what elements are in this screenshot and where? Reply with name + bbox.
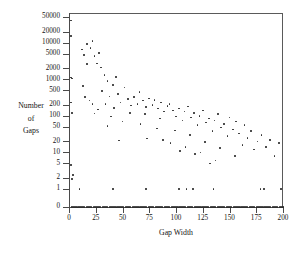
y-tick-mark xyxy=(63,116,69,117)
data-point xyxy=(167,105,169,107)
data-point xyxy=(157,108,159,110)
data-point xyxy=(162,139,164,141)
data-point xyxy=(238,133,240,135)
x-tick-mark xyxy=(176,207,177,213)
data-point xyxy=(97,109,99,111)
data-point xyxy=(242,144,244,146)
y-axis-title: NumberofGaps xyxy=(2,100,60,138)
data-point xyxy=(212,130,214,132)
data-point xyxy=(127,98,129,100)
y-tick-label: 20000 xyxy=(42,28,60,35)
y-tick-mark xyxy=(63,43,69,44)
data-point xyxy=(204,141,206,143)
data-point xyxy=(172,110,174,112)
y-tick-mark xyxy=(63,17,69,18)
data-point xyxy=(194,153,196,155)
x-tick-mark xyxy=(96,207,97,213)
data-point xyxy=(208,118,210,120)
y-tick-label: 1 xyxy=(56,185,60,192)
y-tick-mark xyxy=(63,32,69,33)
y-tick-label: 10000 xyxy=(42,39,60,46)
y-tick-label: 20 xyxy=(53,138,60,145)
data-point xyxy=(179,150,181,152)
data-point xyxy=(81,49,83,51)
data-point xyxy=(278,142,280,144)
data-point xyxy=(70,164,72,166)
data-point xyxy=(86,63,88,65)
y-tick-label: 2 xyxy=(56,174,60,181)
y-tick-label: 5000 xyxy=(46,50,60,57)
data-point xyxy=(220,127,222,129)
x-tick-label: 150 xyxy=(215,215,245,222)
data-point xyxy=(274,155,276,157)
data-point xyxy=(159,118,161,120)
data-point xyxy=(113,107,115,109)
data-point xyxy=(70,35,72,37)
data-point xyxy=(234,155,236,157)
y-tick-mark xyxy=(63,127,69,128)
y-tick-label: 0 xyxy=(56,203,60,210)
y-axis-title-line: of xyxy=(2,113,60,126)
data-point xyxy=(263,188,265,190)
x-tick-label: 125 xyxy=(188,215,218,222)
data-point xyxy=(227,135,229,137)
data-point xyxy=(282,206,284,208)
data-point xyxy=(115,76,117,78)
data-point xyxy=(112,188,114,190)
y-tick-label: 2000 xyxy=(46,65,60,72)
data-point xyxy=(83,54,85,56)
y-tick-mark xyxy=(63,68,69,69)
y-tick-mark xyxy=(63,178,69,179)
data-point xyxy=(71,178,73,180)
y-tick-mark xyxy=(63,79,69,80)
x-tick-mark xyxy=(256,207,257,213)
x-tick-label: 175 xyxy=(241,215,271,222)
data-point xyxy=(223,123,225,125)
data-point xyxy=(82,85,84,87)
data-point xyxy=(250,130,252,132)
data-point xyxy=(112,84,114,86)
data-point xyxy=(202,110,204,112)
data-point xyxy=(235,121,237,123)
y-tick-label: 5 xyxy=(56,160,60,167)
x-tick-label: 25 xyxy=(81,215,111,222)
data-point xyxy=(100,67,102,69)
data-point xyxy=(86,43,88,45)
data-point xyxy=(104,74,106,76)
y-tick-mark xyxy=(63,54,69,55)
y-axis-title-line: Gaps xyxy=(2,125,60,138)
x-tick-label: 50 xyxy=(108,215,138,222)
scatter-plot-figure: 0125102050100200500100020005000100002000… xyxy=(0,0,300,260)
data-point xyxy=(178,108,180,110)
data-point xyxy=(133,96,135,98)
data-point xyxy=(84,96,86,98)
y-tick-mark xyxy=(63,105,69,106)
x-tick-mark xyxy=(149,207,150,213)
data-point xyxy=(145,106,147,108)
x-tick-label: 200 xyxy=(268,215,298,222)
data-point xyxy=(148,98,150,100)
data-point xyxy=(265,146,267,148)
data-point xyxy=(178,188,180,190)
x-tick-mark xyxy=(230,207,231,213)
data-point xyxy=(280,188,282,190)
data-point xyxy=(174,130,176,132)
x-tick-label: 0 xyxy=(54,215,84,222)
data-point xyxy=(219,147,221,149)
data-point xyxy=(117,93,119,95)
x-tick-mark xyxy=(123,207,124,213)
x-tick-mark xyxy=(283,207,284,213)
data-point xyxy=(269,139,271,141)
data-point xyxy=(96,63,98,65)
data-point xyxy=(129,112,131,114)
y-tick-mark xyxy=(63,152,69,153)
data-point xyxy=(193,112,195,114)
data-point xyxy=(72,174,74,176)
y-tick-mark xyxy=(63,90,69,91)
y-tick-mark xyxy=(63,163,69,164)
y-tick-label: 50000 xyxy=(42,13,60,20)
x-tick-label: 100 xyxy=(161,215,191,222)
data-point xyxy=(189,134,191,136)
data-point xyxy=(71,112,73,114)
y-tick-label: 1000 xyxy=(46,76,60,83)
